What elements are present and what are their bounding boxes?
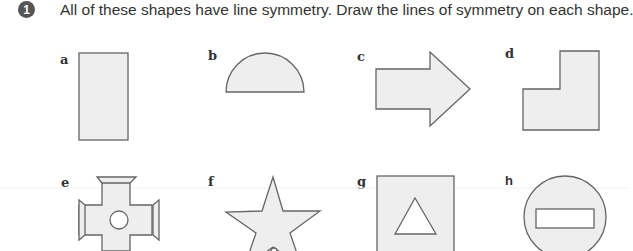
shape-b-semicircle[interactable]: [226, 53, 304, 92]
shape-g-square[interactable]: [377, 176, 454, 251]
shape-a-rectangle[interactable]: [79, 53, 128, 140]
shape-d-l-shape[interactable]: [523, 51, 599, 130]
shape-h-circle[interactable]: [524, 176, 606, 251]
shape-c-arrow[interactable]: [376, 52, 470, 126]
